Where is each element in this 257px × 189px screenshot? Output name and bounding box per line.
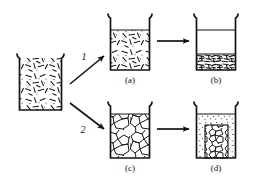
beaker-b-caption: (b) — [211, 75, 222, 85]
beaker-a-caption: (a) — [125, 75, 135, 85]
beaker-d-floc-sediment — [205, 125, 228, 158]
figure-container: 1 2 (a) (b) (c) — [0, 0, 257, 189]
suspension-diagram: 1 2 (a) (b) (c) — [0, 0, 257, 189]
beaker-source-contents — [20, 58, 62, 110]
beaker-d-caption: (d) — [211, 163, 222, 173]
path-label-1: 1 — [82, 51, 87, 62]
path-label-2: 2 — [81, 124, 86, 135]
beaker-source — [17, 54, 64, 110]
beaker-c-contents — [111, 114, 150, 158]
beaker-c-caption: (c) — [125, 163, 135, 173]
beaker-b-supernatant — [197, 30, 236, 54]
beaker-a-contents — [111, 30, 150, 70]
beaker-b-sediment — [197, 54, 236, 70]
